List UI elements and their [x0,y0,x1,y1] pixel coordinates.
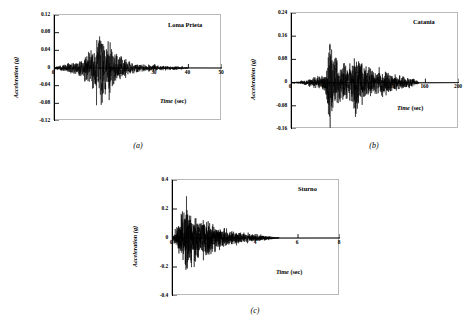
x-tick-label: 0 [280,83,300,89]
x-tick-label: 200 [448,83,468,89]
y-tick-label: 0.08 [264,55,287,61]
x-tick-label: 30 [144,69,164,75]
y-tick-label: -0.08 [264,102,287,108]
x-axis-title-b-word: Time [397,104,410,111]
series-label-b: Catania [413,18,435,25]
y-axis-title-b: Acceleration (g) [249,59,256,100]
x-tick-label: 4 [245,239,265,245]
caption-a: (a) [108,141,168,150]
figure-accelerograms: Loma Prieta Acceleration (g) Time (sec) … [0,0,472,334]
plot-area-b [290,12,458,128]
y-tick-label: -0.4 [145,292,168,298]
panel-b-catania: Catania Acceleration (g) Time (sec) (b) … [236,0,472,167]
waveform-a [54,15,220,119]
x-tick-label: 0 [43,69,63,75]
y-axis-title-a: Acceleration (g) [12,57,19,98]
y-tick-label: -0.16 [264,125,287,131]
x-axis-title-a-unit: (sec) [173,97,187,104]
panel-a-loma-prieta: Loma Prieta Acceleration (g) Time (sec) … [0,0,236,167]
series-label-a: Loma Prieta [168,21,202,28]
x-tick-label: 40 [177,69,197,75]
y-tick-label: 0.12 [27,11,50,17]
y-tick-label: -0.2 [145,263,168,269]
x-axis-title-c: Time (sec) [276,268,302,275]
x-tick-label: 2 [203,239,223,245]
y-tick-label: 0.08 [27,28,50,34]
x-tick-label: 6 [287,239,307,245]
caption-c: (c) [225,306,285,315]
plot-area-c [171,179,339,295]
y-tick-label: 0.04 [27,46,50,52]
x-axis-title-b: Time (sec) [397,104,423,111]
x-tick-label: 50 [211,69,231,75]
y-tick-label: -0.12 [27,117,50,123]
y-tick-label: 0.16 [264,32,287,38]
x-tick-label: 160 [414,83,434,89]
x-axis-title-c-word: Time [276,268,289,275]
x-tick-label: 120 [381,83,401,89]
x-axis-title-b-unit: (sec) [410,104,424,111]
x-tick-label: 40 [314,83,334,89]
y-tick-label: -0.04 [27,81,50,87]
x-tick-label: 0 [161,239,181,245]
x-axis-title-a-word: Time [160,97,173,104]
series-label-c: Sturno [298,185,317,192]
y-tick-label: 0.24 [264,9,287,15]
panel-c-sturno: Sturno Acceleration (g) Time (sec) (c) 0… [118,167,354,334]
x-tick-label: 8 [329,239,349,245]
x-axis-title-c-unit: (sec) [289,268,303,275]
y-tick-label: -0.08 [27,99,50,105]
y-tick-label: 0.4 [145,176,168,182]
x-axis-title-a: Time (sec) [160,97,186,104]
waveform-c [172,180,338,294]
y-axis-title-c: Acceleration (g) [131,226,138,267]
x-tick-label: 20 [110,69,130,75]
plot-area-a [53,14,221,120]
waveform-b [291,13,457,127]
y-tick-label: 0.2 [145,205,168,211]
caption-b: (b) [344,141,404,150]
